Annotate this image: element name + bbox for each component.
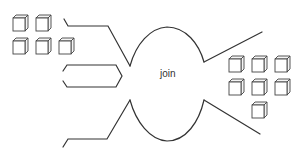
cube-icon bbox=[275, 56, 290, 72]
cube-icon bbox=[252, 79, 267, 95]
cube-icon bbox=[13, 38, 28, 54]
bottom-input-stream bbox=[63, 100, 130, 147]
join-diagram bbox=[0, 0, 307, 164]
middle-input-stream bbox=[63, 65, 122, 87]
right-cube-group bbox=[229, 56, 290, 118]
cube-icon bbox=[13, 15, 28, 31]
join-label: join bbox=[160, 68, 176, 79]
cube-icon bbox=[59, 38, 74, 54]
cube-icon bbox=[275, 79, 290, 95]
cube-icon bbox=[252, 56, 267, 72]
cube-icon bbox=[252, 102, 267, 118]
join-ellipse-bottom bbox=[130, 100, 204, 141]
cube-icon bbox=[229, 56, 244, 72]
cube-icon bbox=[36, 15, 51, 31]
join-ellipse-top bbox=[130, 27, 204, 66]
cube-icon bbox=[229, 79, 244, 95]
cube-icon bbox=[36, 38, 51, 54]
